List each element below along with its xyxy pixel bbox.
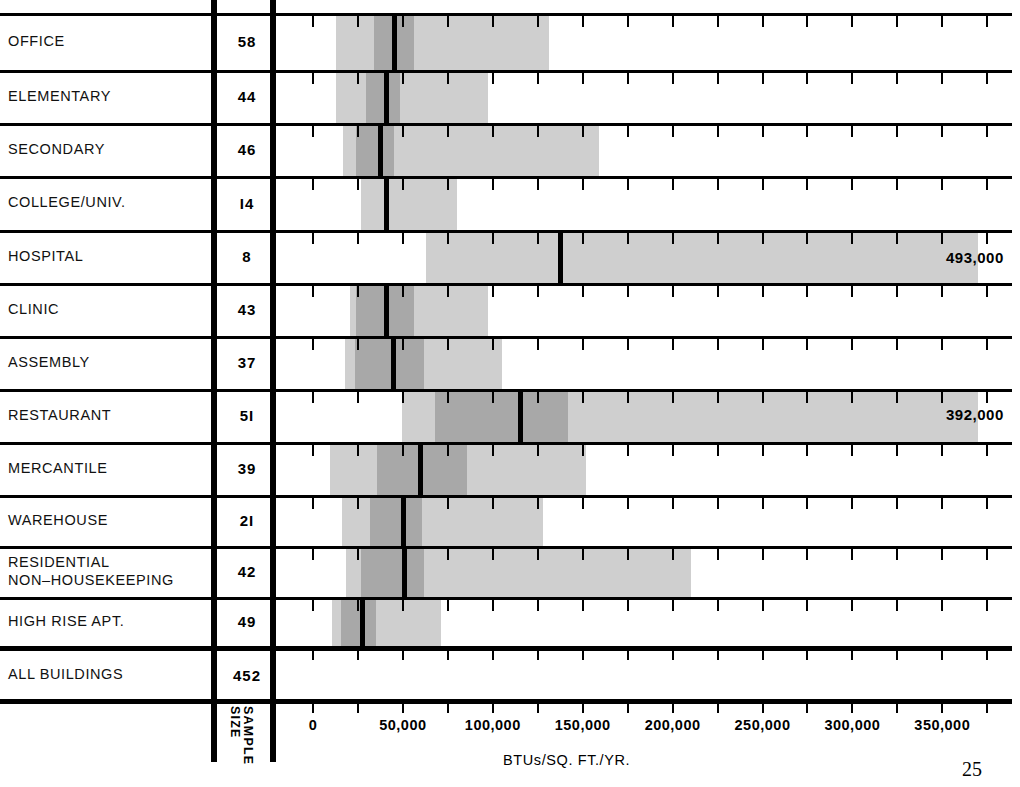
- x-tick-label: 300,000: [802, 717, 902, 733]
- x-axis-tick-labels: 050,000100,000150,000200,000250,000300,0…: [0, 0, 1020, 787]
- x-axis-title: BTUs/SQ. FT./YR.: [503, 752, 630, 768]
- x-tick-label: 50,000: [353, 717, 453, 733]
- x-tick-label: 250,000: [713, 717, 813, 733]
- x-tick-label: 200,000: [623, 717, 723, 733]
- x-tick-label: 100,000: [443, 717, 543, 733]
- x-tick-label: 0: [263, 717, 363, 733]
- x-tick-label: 350,000: [892, 717, 992, 733]
- page-number: 25: [962, 758, 982, 781]
- x-tick-label: 150,000: [533, 717, 633, 733]
- chart-canvas: OFFICE ELEMENTARY SECONDARY COLLEGE/UNIV…: [0, 0, 1020, 787]
- sample-size-header: SAMPLE SIZE: [228, 706, 254, 784]
